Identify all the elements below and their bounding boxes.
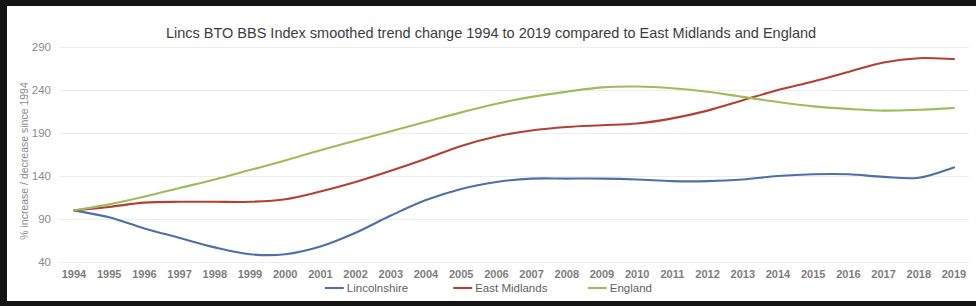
x-axis-tick-label: 2019 bbox=[942, 268, 966, 280]
scan-edge-bottom bbox=[0, 301, 976, 306]
x-axis-tick-label: 2013 bbox=[731, 268, 755, 280]
page-content: Lincs BTO BBS Index smoothed trend chang… bbox=[7, 6, 976, 301]
x-axis-tick-label: 2015 bbox=[801, 268, 825, 280]
x-axis-tick-label: 2008 bbox=[555, 268, 579, 280]
screenshot-page: Lincs BTO BBS Index smoothed trend chang… bbox=[0, 0, 976, 306]
x-axis-tick-label: 1994 bbox=[62, 268, 87, 280]
x-axis-tick-label: 1998 bbox=[203, 268, 227, 280]
chart-container: Lincs BTO BBS Index smoothed trend chang… bbox=[7, 6, 976, 301]
x-axis-tick-label: 2004 bbox=[414, 268, 439, 280]
legend-label: East Midlands bbox=[475, 282, 547, 294]
x-axis-tick-label: 2012 bbox=[695, 268, 719, 280]
x-axis-tick-label: 2005 bbox=[449, 268, 473, 280]
x-axis-tick-label: 2017 bbox=[871, 268, 895, 280]
x-axis-tick-label: 2002 bbox=[343, 268, 367, 280]
chart-title: Lincs BTO BBS Index smoothed trend chang… bbox=[166, 25, 816, 41]
x-axis-tick-label: 2001 bbox=[308, 268, 332, 280]
line-chart: Lincs BTO BBS Index smoothed trend chang… bbox=[7, 6, 976, 301]
chart-background bbox=[7, 6, 976, 301]
x-axis-tick-label: 1995 bbox=[97, 268, 121, 280]
y-axis-tick-label: 140 bbox=[32, 170, 51, 182]
x-axis-tick-label: 1999 bbox=[238, 268, 262, 280]
x-axis-tick-label: 2016 bbox=[836, 268, 860, 280]
x-axis-tick-label: 1996 bbox=[132, 268, 156, 280]
y-axis-title: % increase / decrease since 1994 bbox=[18, 82, 30, 240]
x-axis-tick-label: 2014 bbox=[766, 268, 791, 280]
y-axis-tick-label: 190 bbox=[32, 127, 51, 139]
x-axis-tick-label: 2003 bbox=[379, 268, 403, 280]
y-axis-tick-label: 290 bbox=[32, 41, 51, 53]
y-axis-tick-label: 90 bbox=[38, 213, 51, 225]
x-axis-tick-label: 2006 bbox=[484, 268, 508, 280]
x-axis-tick-label: 2018 bbox=[907, 268, 931, 280]
x-axis-tick-label: 2007 bbox=[519, 268, 543, 280]
x-axis-tick-label: 2011 bbox=[660, 268, 684, 280]
legend-label: Lincolnshire bbox=[347, 282, 408, 294]
x-axis-tick-label: 2010 bbox=[625, 268, 649, 280]
scan-edge-left bbox=[0, 0, 7, 306]
legend-label: England bbox=[610, 282, 652, 294]
y-axis-tick-label: 240 bbox=[32, 84, 51, 96]
x-axis-tick-label: 2009 bbox=[590, 268, 614, 280]
x-axis-tick-label: 2000 bbox=[273, 268, 297, 280]
y-axis-tick-label: 40 bbox=[38, 256, 51, 268]
x-axis-tick-label: 1997 bbox=[167, 268, 191, 280]
